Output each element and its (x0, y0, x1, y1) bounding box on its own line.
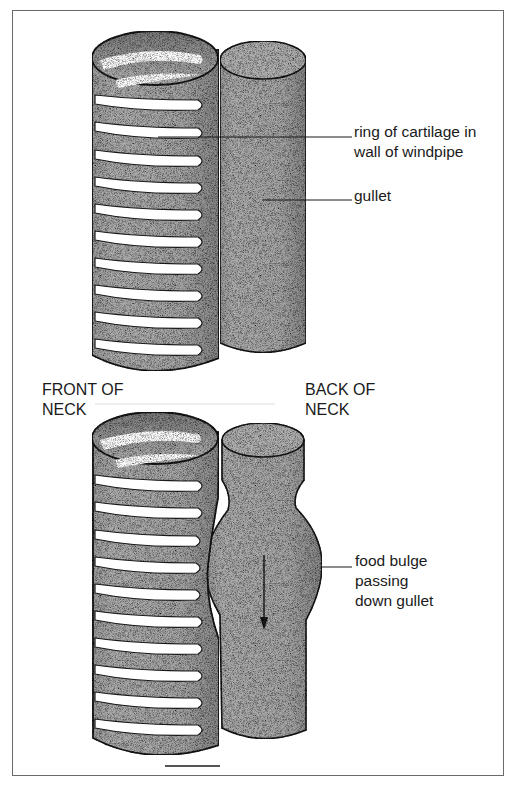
label-cartilage-ring: ring of cartilage in wall of windpipe (354, 122, 476, 162)
label-line: BACK OF (305, 380, 375, 400)
label-back-of-neck: BACK OF NECK (305, 380, 375, 420)
label-gullet: gullet (354, 186, 391, 206)
label-line: ring of cartilage in (354, 122, 476, 142)
bottom-gullet (205, 423, 322, 739)
label-front-of-neck: FRONT OF NECK (42, 380, 123, 420)
label-food-bulge: food bulge passing down gullet (355, 551, 433, 611)
label-line: passing (355, 571, 433, 591)
label-line: NECK (305, 400, 375, 420)
label-line: NECK (42, 400, 123, 420)
top-gullet (220, 41, 306, 353)
label-line: down gullet (355, 591, 433, 611)
label-line: gullet (354, 186, 391, 206)
label-line: food bulge (355, 551, 433, 571)
label-line: FRONT OF (42, 380, 123, 400)
label-line: wall of windpipe (354, 142, 476, 162)
